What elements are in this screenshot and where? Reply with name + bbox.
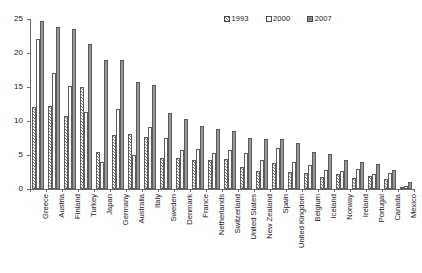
bar-1993 — [368, 176, 372, 189]
x-axis-label: United Kingdom — [297, 194, 306, 248]
x-axis-label: Portugal — [377, 194, 386, 222]
bar-2000 — [148, 127, 152, 189]
x-tick-mark — [334, 189, 335, 192]
bar-2007 — [120, 60, 124, 189]
bar-2000 — [356, 169, 360, 189]
x-tick-mark — [414, 189, 415, 192]
x-axis-label: Australia — [137, 194, 146, 224]
x-axis-label: Austria — [57, 194, 66, 218]
y-tick-label: 0 — [19, 184, 23, 193]
x-axis-label: Sweden — [169, 194, 178, 221]
bar-1993 — [80, 87, 84, 189]
x-tick-mark — [30, 189, 31, 192]
bar-1993 — [224, 159, 228, 189]
bar-group — [32, 19, 45, 189]
x-tick-mark — [174, 189, 175, 192]
bar-2007 — [88, 44, 92, 189]
bar-2007 — [376, 164, 380, 189]
bar-group — [112, 19, 125, 189]
bar-2007 — [280, 139, 284, 189]
x-axis-label: Finland — [73, 194, 82, 219]
x-tick-mark — [222, 189, 223, 192]
x-axis-label: Turkey — [89, 194, 98, 217]
bar-2007 — [392, 170, 396, 189]
bar-2000 — [164, 138, 168, 189]
bar-2000 — [116, 109, 120, 189]
bar-2007 — [72, 29, 76, 189]
bar-1993 — [48, 106, 52, 189]
bar-1993 — [128, 134, 132, 189]
bar-2000 — [228, 150, 232, 189]
bar-group — [352, 19, 365, 189]
x-axis-label: Japan — [105, 194, 114, 215]
x-tick-mark — [318, 189, 319, 192]
bar-group — [160, 19, 173, 189]
bar-2000 — [404, 186, 408, 189]
bar-2007 — [232, 131, 236, 189]
bar-2007 — [360, 162, 364, 189]
bar-2000 — [84, 112, 88, 189]
bar-2000 — [180, 150, 184, 189]
x-axis-label: Iceland — [329, 194, 338, 219]
bar-1993 — [384, 179, 388, 189]
bar-2000 — [292, 162, 296, 189]
bar-2007 — [248, 138, 252, 189]
bar-1993 — [400, 187, 404, 189]
x-axis-label: Norway — [345, 194, 354, 220]
bar-group — [208, 19, 221, 189]
bar-1993 — [288, 172, 292, 189]
bar-2000 — [340, 171, 344, 189]
bar-group — [48, 19, 61, 189]
x-tick-mark — [398, 189, 399, 192]
bar-1993 — [96, 152, 100, 189]
bar-2007 — [152, 85, 156, 189]
bar-2000 — [52, 73, 56, 189]
bar-1993 — [336, 174, 340, 189]
bar-2000 — [36, 39, 40, 189]
bar-group — [64, 19, 77, 189]
bar-2000 — [244, 153, 248, 189]
bar-1993 — [256, 171, 260, 189]
bar-2007 — [264, 139, 268, 189]
x-axis-label: Spain — [281, 194, 290, 213]
bar-1993 — [32, 107, 36, 189]
bar-group — [192, 19, 205, 189]
x-tick-mark — [350, 189, 351, 192]
bar-2000 — [276, 148, 280, 189]
bar-1993 — [320, 177, 324, 189]
x-tick-mark — [286, 189, 287, 192]
x-tick-mark — [382, 189, 383, 192]
bar-chart: 1993 2000 2007 0510152025 GreeceAustriaF… — [0, 0, 422, 273]
bar-2000 — [308, 165, 312, 189]
bar-2007 — [40, 21, 44, 189]
bar-2007 — [312, 152, 316, 189]
plot-area — [30, 19, 414, 189]
bar-2007 — [56, 27, 60, 189]
bar-1993 — [272, 163, 276, 189]
bar-2000 — [212, 153, 216, 189]
bar-2007 — [200, 126, 204, 189]
x-axis-label: Italy — [153, 194, 162, 208]
x-tick-mark — [270, 189, 271, 192]
bar-2007 — [408, 182, 412, 189]
bar-group — [176, 19, 189, 189]
bar-2000 — [260, 160, 264, 189]
bar-group — [400, 19, 413, 189]
y-tick-label: 10 — [14, 116, 23, 125]
x-axis-label: New Zealand — [265, 194, 274, 239]
x-tick-mark — [78, 189, 79, 192]
bar-2007 — [296, 143, 300, 189]
y-tick-label: 25 — [14, 14, 23, 23]
x-tick-mark — [62, 189, 63, 192]
x-axis-label: Netherlands — [217, 194, 226, 235]
x-axis-label: France — [201, 194, 210, 218]
bar-group — [144, 19, 157, 189]
x-tick-mark — [126, 189, 127, 192]
bar-2007 — [168, 113, 172, 189]
x-axis-label: Switzerland — [233, 194, 242, 233]
x-axis-label: Belgium — [313, 194, 322, 221]
x-axis-label: Ireland — [361, 194, 370, 217]
bar-1993 — [304, 173, 308, 189]
bar-group — [336, 19, 349, 189]
bar-group — [256, 19, 269, 189]
